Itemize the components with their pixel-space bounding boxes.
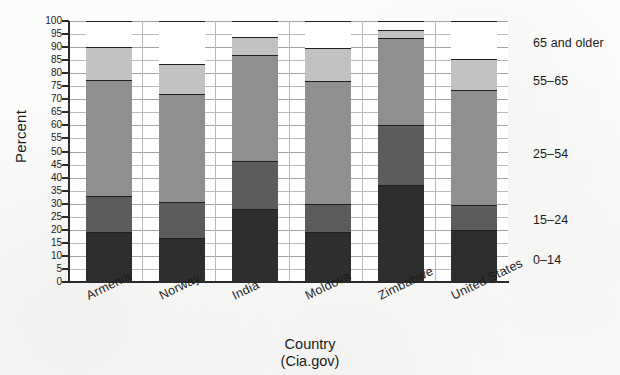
y-axis-tick — [62, 59, 69, 61]
bar-segment-15-24[interactable] — [232, 161, 279, 209]
y-axis-tick — [62, 177, 69, 179]
y-axis-tick-label: 15 — [36, 238, 62, 248]
bar-segment-55-65[interactable] — [232, 37, 279, 55]
bar-segment-25-54[interactable] — [378, 38, 425, 125]
y-axis-tick-label: 55 — [36, 133, 62, 143]
bar-segment-0-14[interactable] — [232, 209, 279, 282]
bar-segment-55-65[interactable] — [378, 30, 425, 38]
gridline-vertical — [362, 21, 363, 282]
plot-area — [69, 21, 508, 282]
y-axis-tick-label: 75 — [36, 81, 62, 91]
y-axis-tick — [62, 281, 69, 283]
bar-segment-25-54[interactable] — [451, 90, 498, 205]
y-axis-tick — [62, 190, 69, 192]
bar-segment-15-24[interactable] — [305, 204, 352, 233]
bar-segment-65-and-older[interactable] — [378, 21, 425, 30]
bar-segment-0-14[interactable] — [378, 185, 425, 282]
y-axis-tick-labels: 0510152025303540455055606570758085909510… — [36, 21, 62, 282]
bar-norway[interactable] — [159, 21, 205, 282]
y-axis-tick-label: 100 — [36, 16, 62, 26]
bar-segment-65-and-older[interactable] — [159, 21, 206, 64]
y-axis-tick — [62, 229, 69, 231]
y-axis-tick — [62, 242, 69, 244]
y-axis-tick — [62, 98, 69, 100]
y-axis-tick-label: 35 — [36, 186, 62, 196]
y-axis-tick-label: 60 — [36, 120, 62, 130]
y-axis-tick — [62, 46, 69, 48]
y-axis-tick-label: 90 — [36, 42, 62, 52]
bar-segment-15-24[interactable] — [378, 125, 425, 185]
bar-segment-15-24[interactable] — [159, 202, 206, 237]
y-axis-tick-label: 30 — [36, 199, 62, 209]
legend-label-15-24: 15–24 — [533, 213, 568, 227]
y-axis-tick-label: 5 — [36, 264, 62, 274]
y-axis-tick — [62, 151, 69, 153]
y-axis-tick-label: 95 — [36, 29, 62, 39]
bar-segment-65-and-older[interactable] — [451, 21, 498, 59]
legend-label-65-and-older: 65 and older — [533, 36, 604, 50]
bar-armenia[interactable] — [86, 21, 132, 282]
bar-segment-55-65[interactable] — [451, 59, 498, 90]
gridline-vertical — [215, 21, 216, 282]
bar-segment-65-and-older[interactable] — [305, 21, 352, 48]
x-axis-source-label: (Cia.gov) — [0, 353, 620, 369]
x-axis-line — [68, 281, 509, 283]
gridline-vertical — [289, 21, 290, 282]
gridline-vertical — [435, 21, 436, 282]
y-axis-tick — [62, 33, 69, 35]
bar-segment-55-65[interactable] — [305, 48, 352, 81]
y-axis-tick-label: 85 — [36, 55, 62, 65]
y-axis-tick — [62, 203, 69, 205]
bar-moldova[interactable] — [305, 21, 351, 282]
bar-india[interactable] — [232, 21, 278, 282]
legend-label-25-54: 25–54 — [533, 147, 568, 161]
y-axis-tick-label: 70 — [36, 94, 62, 104]
bar-segment-55-65[interactable] — [159, 64, 206, 94]
legend-label-55-65: 55–65 — [533, 74, 568, 88]
y-axis-tick — [62, 85, 69, 87]
y-axis-tick — [62, 111, 69, 113]
y-axis-tick-label: 80 — [36, 68, 62, 78]
y-axis-tick-label: 45 — [36, 160, 62, 170]
bar-segment-65-and-older[interactable] — [232, 21, 279, 37]
gridline-vertical — [142, 21, 143, 282]
bar-segment-65-and-older[interactable] — [86, 21, 133, 47]
y-axis-tick — [62, 255, 69, 257]
y-axis-tick-label: 65 — [36, 107, 62, 117]
bar-segment-25-54[interactable] — [305, 81, 352, 204]
bar-segment-15-24[interactable] — [451, 205, 498, 230]
y-axis-tick — [62, 72, 69, 74]
y-axis-title: Percent — [12, 82, 29, 192]
x-axis-title: Country — [0, 336, 620, 352]
y-axis-tick — [62, 216, 69, 218]
y-axis-tick-label: 40 — [36, 173, 62, 183]
y-axis-tick-label: 50 — [36, 147, 62, 157]
bar-segment-55-65[interactable] — [86, 47, 133, 80]
bar-segment-15-24[interactable] — [86, 196, 133, 233]
bar-segment-25-54[interactable] — [86, 80, 133, 196]
y-axis-tick — [62, 20, 69, 22]
y-axis-tick-label: 20 — [36, 225, 62, 235]
y-axis-tick-label: 25 — [36, 212, 62, 222]
y-axis-tick — [62, 124, 69, 126]
y-axis-tick — [62, 164, 69, 166]
y-axis-tick — [62, 137, 69, 139]
bar-segment-25-54[interactable] — [159, 94, 206, 202]
y-axis-tick — [62, 268, 69, 270]
y-axis-tick-label: 0 — [36, 277, 62, 287]
bar-united-states[interactable] — [451, 21, 497, 282]
legend-label-0-14: 0–14 — [533, 253, 561, 267]
bar-zimbabwe[interactable] — [378, 21, 424, 282]
chart-page: Percent 05101520253035404550556065707580… — [0, 0, 620, 375]
y-axis-tick-label: 10 — [36, 251, 62, 261]
bar-segment-25-54[interactable] — [232, 55, 279, 161]
